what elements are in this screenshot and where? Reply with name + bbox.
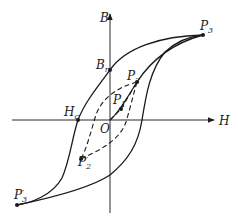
b-axis-label: B <box>99 11 109 25</box>
label-p2: P2 <box>126 69 140 85</box>
label-hc: Hc <box>63 105 79 121</box>
label-br: Br <box>95 58 110 74</box>
label-p3-prime: P3′ <box>13 188 27 204</box>
point-p3 <box>201 33 205 37</box>
hysteresis-diagram: B H O P3 Br P2 P1 Hc P2′ P3′ <box>0 0 238 224</box>
h-axis-label: H <box>218 114 230 128</box>
label-p3: P3 <box>199 19 213 35</box>
label-p2-prime: P2′ <box>77 155 91 171</box>
origin-label: O <box>100 122 110 136</box>
point-p3-prime <box>15 203 19 207</box>
label-p1: P1 <box>112 93 126 109</box>
